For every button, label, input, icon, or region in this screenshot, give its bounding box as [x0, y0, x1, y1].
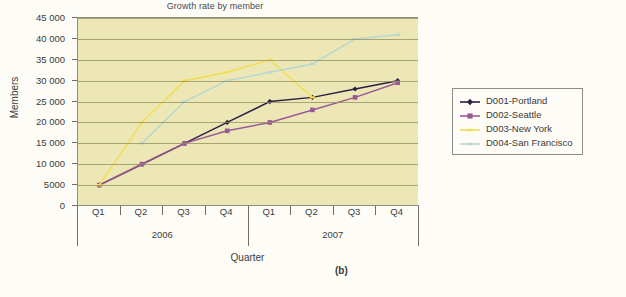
- y-tick-label: 30 000: [36, 74, 65, 85]
- y-tick-label: 45 000: [36, 12, 65, 23]
- x-tick-separator: [375, 206, 376, 215]
- legend-item[interactable]: D004-San Francisco: [459, 135, 577, 149]
- legend-item[interactable]: D002-Seattle: [459, 107, 577, 121]
- x-tick-label: Q1: [262, 206, 275, 217]
- chart-title: Growth rate by member: [0, 1, 430, 11]
- x-tick-label: Q1: [92, 206, 105, 217]
- data-point-marker: [352, 86, 357, 91]
- y-axis-tick-labels: 0500010 00015 00020 00025 00030 00035 00…: [0, 17, 72, 205]
- x-tick-label: Q2: [305, 206, 318, 217]
- x-tick-separator: [120, 206, 121, 215]
- figure-root: Growth rate by member Members 0500010 00…: [0, 0, 626, 297]
- legend-label: D004-San Francisco: [486, 137, 573, 148]
- gridline: [78, 164, 418, 165]
- x-axis-title: Quarter: [77, 252, 418, 263]
- legend-swatch-icon: [459, 122, 481, 134]
- y-tick-label: 15 000: [36, 137, 65, 148]
- plot-series-svg: [78, 18, 419, 206]
- legend-item[interactable]: D003-New York: [459, 121, 577, 135]
- legend-swatch-icon: [459, 136, 481, 148]
- plot-area: [77, 17, 418, 205]
- gridline: [78, 18, 418, 19]
- y-tick-label: 5000: [44, 179, 65, 190]
- x-tick-label: Q2: [135, 206, 148, 217]
- gridline: [78, 122, 418, 123]
- legend-label: D001-Portland: [486, 95, 547, 106]
- y-tick-label: 25 000: [36, 95, 65, 106]
- series-line: [142, 35, 398, 144]
- gridline: [78, 185, 418, 186]
- x-tick-separator: [333, 206, 334, 215]
- x-tick-separator: [162, 206, 163, 215]
- data-point-marker: [267, 71, 272, 73]
- data-point-marker: [310, 108, 315, 113]
- data-point-marker: [310, 63, 315, 65]
- y-tick-label: 35 000: [36, 53, 65, 64]
- panel-letter: (b): [335, 265, 348, 276]
- data-point-marker: [353, 95, 358, 100]
- x-group-separator: [77, 206, 78, 246]
- x-tick-label: Q4: [390, 206, 403, 217]
- x-tick-separator: [205, 206, 206, 215]
- figure-caption: [30, 290, 450, 297]
- gridline: [78, 143, 418, 144]
- x-tick-separator: [290, 206, 291, 215]
- x-group-label: 2007: [322, 229, 343, 240]
- gridline: [78, 102, 418, 103]
- x-tick-label: Q3: [348, 206, 361, 217]
- gridline: [78, 60, 418, 61]
- y-tick-label: 40 000: [36, 32, 65, 43]
- legend-swatch-icon: [459, 108, 481, 120]
- gridline: [78, 39, 418, 40]
- gridline: [78, 81, 418, 82]
- legend-label: D003-New York: [486, 123, 552, 134]
- data-point-marker: [225, 71, 230, 73]
- chart-legend: D001-PortlandD002-SeattleD003-New YorkD0…: [452, 88, 583, 155]
- y-tick-label: 0: [60, 200, 65, 211]
- y-tick-label: 20 000: [36, 116, 65, 127]
- legend-label: D002-Seattle: [486, 109, 541, 120]
- data-point-marker: [395, 34, 400, 36]
- legend-item[interactable]: D001-Portland: [459, 93, 577, 107]
- x-group-separator: [248, 206, 249, 246]
- data-point-marker: [225, 129, 230, 134]
- data-point-marker: [310, 96, 315, 98]
- x-group-separator: [418, 206, 419, 246]
- x-tick-label: Q3: [177, 206, 190, 217]
- x-group-label: 2006: [152, 229, 173, 240]
- x-tick-label: Q4: [220, 206, 233, 217]
- y-tick-label: 10 000: [36, 158, 65, 169]
- x-axis-group-labels: 20062007: [77, 226, 418, 244]
- legend-swatch-icon: [459, 94, 481, 106]
